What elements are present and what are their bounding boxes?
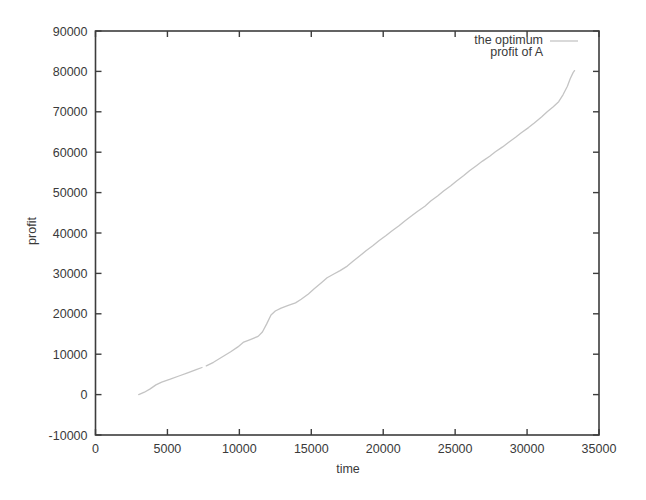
y-tick-label: 20000 bbox=[53, 307, 88, 321]
legend-sample-spacer bbox=[543, 47, 583, 59]
x-axis-title: time bbox=[336, 462, 360, 476]
legend-row-2: profit of A bbox=[474, 47, 583, 59]
profit-curve bbox=[139, 368, 202, 395]
plot-border bbox=[96, 31, 600, 435]
y-tick-label: 50000 bbox=[53, 186, 88, 200]
legend-label-profit-a: profit of A bbox=[490, 47, 543, 59]
profit-curve bbox=[206, 71, 574, 366]
plot-area: 05000100001500020000250003000035000-1000… bbox=[0, 0, 646, 500]
y-tick-label: 60000 bbox=[53, 146, 88, 160]
legend-line-sample bbox=[543, 35, 583, 47]
x-tick-label: 0 bbox=[92, 442, 99, 456]
x-tick-label: 15000 bbox=[294, 442, 329, 456]
x-tick-label: 35000 bbox=[582, 442, 617, 456]
chart-figure: 05000100001500020000250003000035000-1000… bbox=[0, 0, 646, 500]
y-tick-label: 40000 bbox=[53, 227, 88, 241]
legend: the optimum profit of A bbox=[474, 35, 583, 58]
x-tick-label: 5000 bbox=[154, 442, 182, 456]
y-tick-label: 10000 bbox=[53, 348, 88, 362]
y-tick-label: -10000 bbox=[49, 429, 88, 443]
y-tick-label: 30000 bbox=[53, 267, 88, 281]
y-tick-label: 0 bbox=[81, 388, 88, 402]
x-tick-label: 30000 bbox=[510, 442, 545, 456]
y-tick-label: 80000 bbox=[53, 65, 88, 79]
x-tick-label: 10000 bbox=[222, 442, 257, 456]
y-tick-label: 90000 bbox=[53, 25, 88, 39]
x-tick-label: 20000 bbox=[366, 442, 401, 456]
y-axis-title: profit bbox=[25, 217, 39, 245]
x-tick-label: 25000 bbox=[438, 442, 473, 456]
y-tick-label: 70000 bbox=[53, 105, 88, 119]
